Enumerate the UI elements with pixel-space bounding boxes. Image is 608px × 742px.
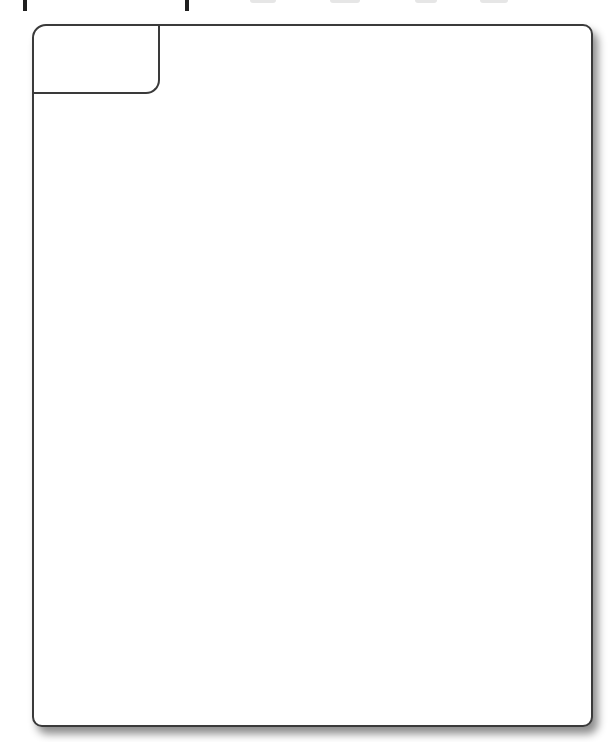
folder-tab (32, 24, 160, 94)
heading-glyph-descender (185, 0, 189, 11)
heading-glyph-fragment (250, 0, 276, 3)
heading-glyph-fragment (415, 0, 437, 3)
card-content-area (34, 96, 591, 725)
clipped-heading (0, 0, 608, 14)
heading-glyph-fragment (330, 0, 360, 3)
folder-card (32, 24, 593, 727)
heading-glyph-fragment (480, 0, 508, 3)
heading-glyph-descender (23, 0, 27, 11)
folder-tab-label (32, 24, 158, 92)
